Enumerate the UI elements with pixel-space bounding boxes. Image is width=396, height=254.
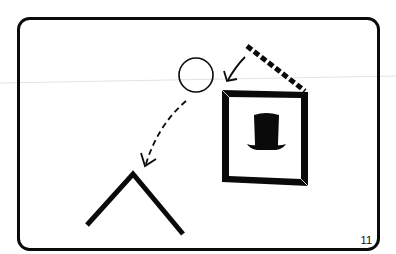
page-number: 11 [352, 234, 372, 246]
instruction-diagram [0, 0, 396, 254]
scan-artifact-line [0, 76, 396, 83]
chevron-shape [87, 174, 183, 234]
arrow-to-circle [224, 57, 245, 81]
panel-border [19, 19, 379, 250]
arrowhead-icon [141, 153, 156, 166]
dashed-curve-arrow [141, 101, 186, 166]
dashed-roof-line [247, 46, 305, 91]
circle-shape [179, 58, 213, 92]
